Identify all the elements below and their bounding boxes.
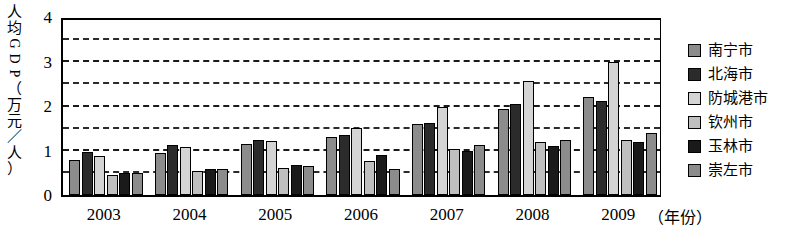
legend-item-南宁市: 南宁市 [688,38,788,62]
legend-item-北海市: 北海市 [688,62,788,86]
bar-北海市-2006 [339,135,350,195]
y-axis-title-char: 元 [2,113,26,129]
bar-北海市-2009 [596,101,607,195]
legend-swatch-icon [688,116,701,129]
legend-item-崇左市: 崇左市 [688,158,788,182]
bar-玉林市-2004 [205,169,216,195]
y-axis-title-char: 人 [2,4,26,20]
legend-item-label: 北海市 [708,66,753,82]
bar-防城港市-2004 [180,147,191,195]
bar-崇左市-2008 [560,140,571,195]
legend-swatch-icon [688,92,701,105]
bar-group-2008 [492,20,578,195]
bar-group-2005 [234,20,320,195]
bar-南宁市-2006 [326,137,337,195]
x-tick-label-2004: 2004 [147,205,233,225]
x-tick-label-2003: 2003 [61,205,147,225]
legend-item-label: 崇左市 [708,162,753,178]
y-axis-title-char: ／ [2,129,26,145]
bar-崇左市-2007 [474,145,485,195]
y-axis-title-char: 万 [2,97,26,113]
bar-钦州市-2008 [535,142,546,195]
y-tick-label-1: 1 [30,142,52,162]
legend-item-label: 玉林市 [708,138,753,154]
bar-崇左市-2003 [132,173,143,195]
x-tick-label-2006: 2006 [318,205,404,225]
y-axis-title-char: ） [2,161,26,177]
bar-崇左市-2009 [646,133,657,195]
legend-swatch-icon [688,164,701,177]
bar-钦州市-2009 [621,140,632,195]
bar-防城港市-2005 [266,141,277,195]
x-tick-label-2005: 2005 [232,205,318,225]
x-tick-label-2007: 2007 [404,205,490,225]
plot-area [61,18,661,197]
legend: 南宁市北海市防城港市钦州市玉林市崇左市 [688,38,788,182]
bar-钦州市-2003 [107,175,118,195]
bar-南宁市-2004 [155,153,166,195]
bar-防城港市-2007 [437,107,448,195]
legend-swatch-icon [688,140,701,153]
bar-玉林市-2007 [462,151,473,195]
bar-group-2007 [406,20,492,195]
bar-防城港市-2009 [608,62,619,195]
y-tick-label-0: 0 [30,186,52,206]
bar-北海市-2003 [82,152,93,195]
y-tick-label-3: 3 [30,53,52,73]
y-tick-label-4: 4 [30,8,52,28]
bar-玉林市-2006 [376,155,387,195]
x-axis-unit-label: （年份） [648,204,712,228]
legend-item-label: 南宁市 [708,42,753,58]
bar-玉林市-2005 [291,165,302,195]
bar-钦州市-2005 [278,168,289,195]
bar-北海市-2005 [253,140,264,195]
bar-北海市-2008 [510,104,521,195]
bar-北海市-2007 [424,123,435,195]
bar-chart-figure: 人 均 G D P （ 万 元 ／ 人 ） 4 3 2 1 0 20032004… [0,0,788,241]
bar-钦州市-2006 [364,161,375,196]
legend-item-玉林市: 玉林市 [688,134,788,158]
y-axis-title-char: 人 [2,145,26,161]
bar-玉林市-2008 [548,146,559,195]
legend-swatch-icon [688,44,701,57]
legend-item-防城港市: 防城港市 [688,86,788,110]
legend-item-label: 钦州市 [708,114,753,130]
bar-崇左市-2006 [389,169,400,195]
bar-钦州市-2007 [449,149,460,195]
x-tick-label-2008: 2008 [490,205,576,225]
bar-group-2004 [149,20,235,195]
bar-group-2009 [577,20,663,195]
bar-玉林市-2003 [119,173,130,195]
bar-崇左市-2005 [303,166,314,195]
y-axis-title-char: P [7,62,22,86]
bar-防城港市-2003 [94,156,105,195]
bar-北海市-2004 [167,145,178,195]
bar-防城港市-2008 [523,81,534,195]
legend-swatch-icon [688,68,701,81]
y-axis-title: 人 均 G D P （ 万 元 ／ 人 ） [2,4,26,209]
bar-南宁市-2007 [412,124,423,195]
bar-南宁市-2008 [498,109,509,195]
bar-group-2003 [63,20,149,195]
bar-南宁市-2003 [69,160,80,195]
bar-崇左市-2004 [217,169,228,195]
bar-group-2006 [320,20,406,195]
bar-玉林市-2009 [633,142,644,195]
bar-南宁市-2009 [583,97,594,195]
bar-南宁市-2005 [241,144,252,195]
y-tick-label-2: 2 [30,97,52,117]
legend-item-label: 防城港市 [708,90,768,106]
legend-item-钦州市: 钦州市 [688,110,788,134]
bar-防城港市-2006 [351,128,362,195]
bar-钦州市-2004 [192,171,203,195]
bar-series-container [63,20,660,195]
